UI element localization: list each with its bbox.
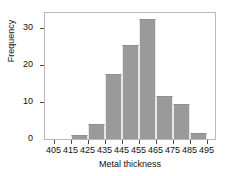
y-axis: Frequency 0102030 bbox=[0, 0, 44, 141]
x-tick-mark bbox=[190, 140, 191, 144]
histogram-bar bbox=[173, 104, 190, 139]
x-tick-mark bbox=[173, 140, 174, 144]
x-axis: Metal thickness 405415425435445455465475… bbox=[44, 140, 216, 176]
histogram-bar bbox=[105, 74, 122, 139]
histogram-bar bbox=[156, 96, 173, 139]
histogram-bar bbox=[190, 133, 207, 139]
y-tick-label: 10 bbox=[23, 97, 33, 106]
y-tick-label: 20 bbox=[23, 60, 33, 69]
y-axis-title: Frequency bbox=[6, 0, 16, 83]
histogram-bar bbox=[88, 124, 105, 139]
histogram-bar bbox=[122, 45, 139, 140]
histogram-bar bbox=[71, 135, 88, 139]
plot-frame bbox=[44, 12, 216, 140]
x-tick-mark bbox=[71, 140, 72, 144]
x-tick-mark bbox=[54, 140, 55, 144]
x-tick-mark bbox=[122, 140, 123, 144]
x-tick-mark bbox=[105, 140, 106, 144]
x-tick-label: 495 bbox=[195, 145, 219, 155]
histogram-figure: Frequency 0102030 Metal thickness 405415… bbox=[0, 0, 230, 176]
x-tick-mark bbox=[88, 140, 89, 144]
plot-area bbox=[45, 13, 215, 139]
y-tick-label: 0 bbox=[28, 134, 33, 143]
x-tick-mark bbox=[139, 140, 140, 144]
x-tick-mark bbox=[156, 140, 157, 144]
histogram-bar bbox=[139, 19, 156, 139]
x-axis-title: Metal thickness bbox=[44, 159, 216, 169]
x-tick-mark bbox=[207, 140, 208, 144]
y-tick-label: 30 bbox=[23, 23, 33, 32]
